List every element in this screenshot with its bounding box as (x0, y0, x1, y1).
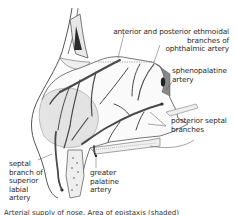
label-line: artery (9, 194, 43, 203)
label-greater-palatine-artery: greater palatine artery (90, 169, 119, 195)
label-ethmoidal-arteries: anterior and posterior ethmoidal branche… (111, 28, 229, 54)
label-line: ophthalmic artery (111, 45, 229, 54)
label-line: branches (171, 126, 227, 135)
nasal-artery-diagram: anterior and posterior ethmoidal branche… (0, 0, 235, 215)
figure-caption: Arterial supply of nose. Area of epistax… (4, 209, 179, 215)
label-posterior-septal-branches: posterior septal branches (171, 117, 227, 134)
label-line: artery (90, 186, 119, 195)
label-sphenopalatine-artery: sphenopalatine artery (172, 67, 227, 84)
label-line: artery (172, 76, 227, 85)
label-septal-branch-superior-labial-artery: septal branch of superior labial artery (9, 160, 43, 203)
